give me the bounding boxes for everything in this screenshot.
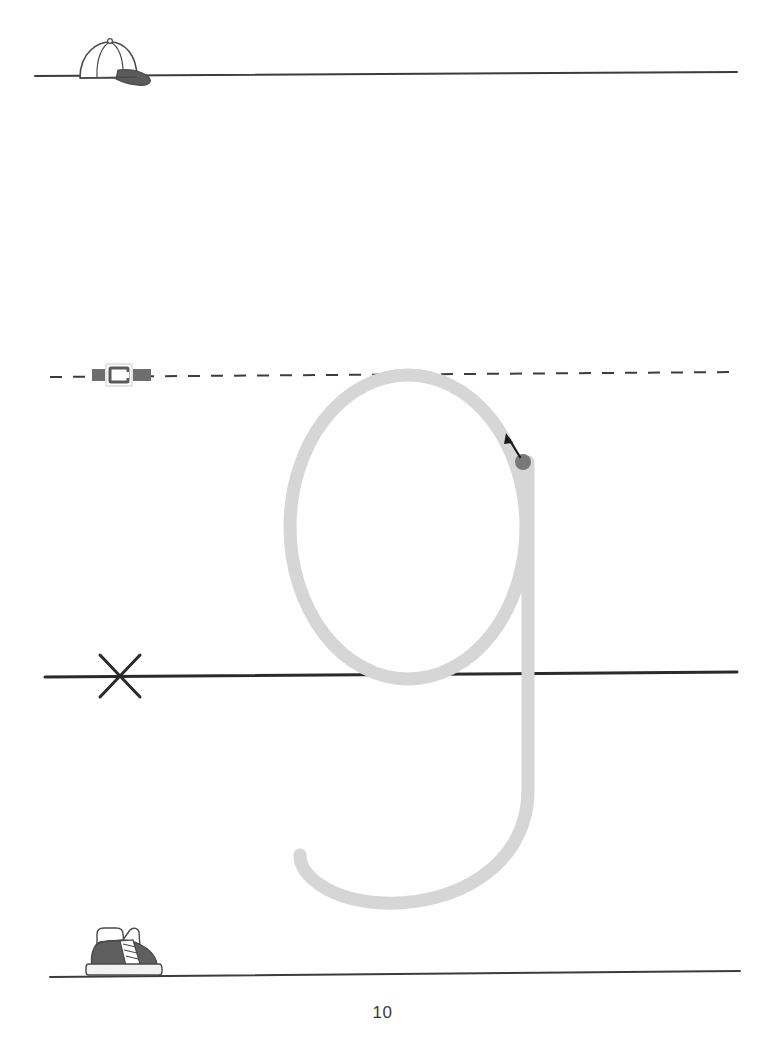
- baseball-cap-icon: [80, 39, 150, 86]
- handwriting-worksheet-page: 10: [0, 0, 765, 1037]
- belt-buckle-icon: [92, 364, 151, 386]
- start-dot: [515, 454, 531, 470]
- cap-button: [108, 39, 113, 44]
- letter-g-bowl: [290, 375, 526, 679]
- cap-band: [80, 77, 137, 78]
- sneaker-shoe-icon: [86, 928, 162, 975]
- worksheet-canvas: [0, 0, 765, 1037]
- shoe-sole: [86, 964, 162, 975]
- page-number: 10: [0, 1003, 765, 1023]
- letter-g-trace: [290, 375, 528, 903]
- belt-buckle-hole: [120, 372, 129, 378]
